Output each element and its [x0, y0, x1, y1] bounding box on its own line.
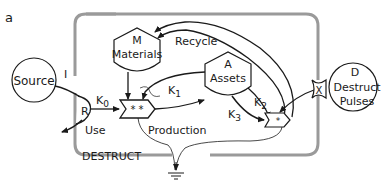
i-label: I	[64, 68, 67, 81]
destruct-pulses-label2: Pulses	[340, 95, 375, 108]
k1-label: K1	[168, 84, 181, 99]
destruct-pulses-letter: D	[351, 66, 359, 79]
materials-label: Materials	[112, 48, 163, 61]
use-arrow	[62, 120, 82, 132]
k1-flow	[155, 100, 204, 109]
heat-sink-icon	[168, 173, 184, 179]
r-label: R	[81, 105, 89, 118]
use-label: Use	[85, 124, 106, 137]
boundary-line	[75, 14, 115, 74]
assets-label: Assets	[210, 72, 246, 85]
k3-label: K3	[228, 108, 241, 123]
feedback-squiggle	[140, 87, 160, 97]
materials-letter: M	[132, 34, 142, 47]
system-boundary-frame	[75, 14, 118, 72]
k2-label: K2	[254, 96, 267, 111]
boundary-path	[75, 14, 116, 76]
panel-label: a	[5, 10, 13, 25]
production-label: Production	[148, 124, 207, 137]
system-boundary	[75, 14, 116, 72]
x-label: X	[316, 85, 323, 96]
destruct-pulses-label1: Destruct	[333, 81, 381, 94]
production-symbol: * *	[130, 104, 143, 115]
boundary-label: DESTRUCT	[82, 150, 141, 163]
source-label: Source	[13, 74, 54, 88]
assets-letter: A	[224, 58, 232, 71]
k0-label: K0	[96, 94, 109, 109]
destruct-system-diagram: a Source I R Use K0 * * Production M Mat…	[0, 0, 388, 184]
destruct-gate-symbol: *	[276, 116, 281, 126]
